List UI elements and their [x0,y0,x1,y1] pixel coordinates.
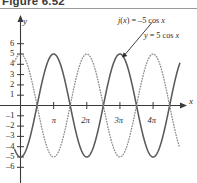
curve-label-j: j(x) = –5 cos x [118,16,165,25]
x-tick-label: 4π [148,115,157,125]
y-tick-label: 4 [10,58,14,68]
y-axis-label: y [23,16,27,26]
y-tick-label: –4 [6,141,15,151]
axis-lines [0,15,187,183]
x-axis-label: x [189,96,193,106]
y-tick-label: –5 [6,151,15,161]
y-tick-label: 1 [10,89,14,99]
y-tick-label: –6 [6,161,15,171]
y-tick-label: 2 [10,79,14,89]
annotation-arrow [122,23,152,58]
x-tick-label: 2π [81,115,90,125]
y-tick-label: –3 [6,130,15,140]
x-tick-label: π [52,115,56,125]
y-tick-label: 5 [10,48,14,58]
coordinate-plot [0,0,197,183]
curve-label-y: y = 5 cos x [144,31,179,40]
figure-container: Figure 6.52 y x 654321–1–2–3–4–5–6 π2π3π… [0,0,197,183]
y-tick-label: 6 [10,38,14,48]
y-tick-label: –2 [6,120,15,130]
y-tick-label: 3 [10,69,14,79]
y-tick-label: –1 [6,110,15,120]
x-tick-label: 3π [114,115,123,125]
